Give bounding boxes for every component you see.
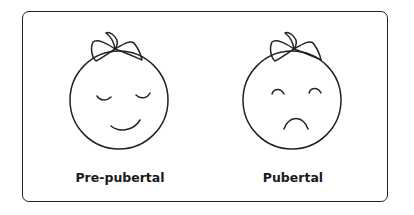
- bow-icon: [92, 33, 142, 61]
- raised-eye-right: [309, 89, 321, 94]
- face-pubertal: [243, 33, 341, 149]
- bow-icon: [271, 33, 321, 61]
- label-pre-pubertal: Pre-pubertal: [50, 170, 190, 185]
- raised-eye-left: [272, 90, 284, 95]
- head-outline: [243, 51, 341, 149]
- head-outline: [70, 51, 168, 149]
- smile-mouth: [111, 120, 140, 130]
- closed-eye-left: [97, 96, 111, 100]
- face-pre-pubertal: [70, 33, 168, 149]
- label-pubertal: Pubertal: [223, 170, 363, 185]
- frown-mouth: [284, 119, 308, 130]
- closed-eye-right: [136, 93, 150, 98]
